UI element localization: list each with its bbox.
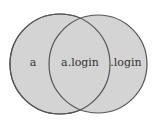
venn-diagram: a a.login .login bbox=[0, 0, 159, 122]
set-a-label: a bbox=[30, 56, 37, 69]
intersection-label: a.login bbox=[61, 56, 99, 69]
set-login-label: .login bbox=[110, 56, 141, 69]
